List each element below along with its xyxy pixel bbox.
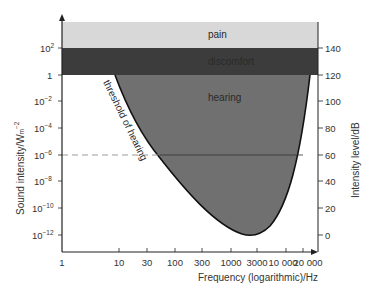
svg-text:20 000: 20 000 — [293, 257, 322, 268]
right-ticks — [318, 48, 323, 235]
svg-text:10−8: 10−8 — [34, 175, 52, 187]
x-axis-arrow-icon — [311, 249, 318, 255]
left-tick-labels: 102 1 10−2 10−4 10−6 10−8 10−10 10−12 — [32, 42, 55, 241]
x-axis-title: Frequency (logarithmic)/Hz — [198, 272, 318, 283]
svg-text:100: 100 — [167, 257, 183, 268]
svg-text:30: 30 — [142, 257, 153, 268]
svg-text:80: 80 — [325, 123, 336, 134]
svg-text:10−12: 10−12 — [32, 229, 54, 241]
pain-band — [62, 22, 318, 48]
hearing-label: hearing — [208, 92, 241, 103]
svg-text:40: 40 — [325, 176, 336, 187]
svg-text:10−10: 10−10 — [32, 202, 54, 214]
pain-label: pain — [208, 29, 227, 40]
right-tick-labels: 140 120 100 80 60 40 20 0 — [325, 43, 341, 241]
svg-text:102: 102 — [40, 42, 55, 54]
svg-text:300: 300 — [194, 257, 210, 268]
y-axis-arrow-icon — [59, 14, 65, 21]
svg-text:1000: 1000 — [220, 257, 241, 268]
svg-text:20: 20 — [325, 203, 336, 214]
svg-text:120: 120 — [325, 70, 341, 81]
svg-text:100: 100 — [325, 96, 341, 107]
svg-text:10−4: 10−4 — [34, 122, 52, 134]
discomfort-band — [62, 48, 318, 75]
chart: 102 1 10−2 10−4 10−6 10−8 10−10 10−12 14… — [0, 0, 379, 299]
x-tick-labels: 1 10 30 100 300 1000 3000 10 000 20 000 — [59, 257, 322, 268]
svg-text:1: 1 — [59, 257, 64, 268]
y-right-axis-title: Intensity level/dB — [350, 122, 361, 198]
svg-text:1: 1 — [47, 70, 52, 81]
svg-text:60: 60 — [325, 150, 336, 161]
svg-text:10−2: 10−2 — [34, 95, 52, 107]
discomfort-label: discomfort — [208, 56, 254, 67]
svg-text:10−6: 10−6 — [34, 149, 52, 161]
svg-text:10: 10 — [114, 257, 125, 268]
y-left-axis-title: Sound intensity/Wm−2 — [13, 121, 26, 215]
svg-text:3000: 3000 — [246, 257, 267, 268]
svg-text:140: 140 — [325, 43, 341, 54]
svg-text:0: 0 — [325, 230, 330, 241]
